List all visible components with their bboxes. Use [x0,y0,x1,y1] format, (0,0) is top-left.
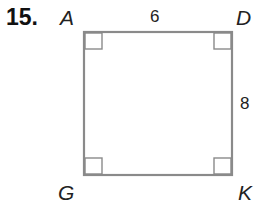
vertex-label-k: K [238,181,253,204]
geometry-figure: 15. A D G K 6 8 [0,0,262,208]
rectangle-agkd [84,32,232,175]
right-angle-mark-k [214,158,231,174]
right-angle-mark-g [85,158,102,174]
right-angle-mark-a [85,33,102,49]
vertex-label-a: A [58,6,74,29]
side-label-right: 8 [240,94,249,113]
vertex-label-d: D [236,6,251,29]
right-angle-mark-d [214,33,231,49]
problem-number: 15. [6,4,38,30]
vertex-label-g: G [58,181,74,204]
side-label-top: 6 [150,7,159,26]
